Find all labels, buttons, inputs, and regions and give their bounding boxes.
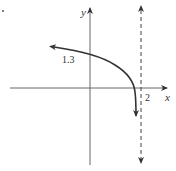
y-intercept-label: 1.3 — [62, 54, 75, 65]
stray-dot — [2, 10, 4, 12]
y-axis-label: y — [80, 6, 86, 18]
x-axis-label: x — [164, 91, 170, 103]
graph: y 1.3 2 x — [0, 0, 176, 171]
asymptote-label: 2 — [145, 92, 150, 103]
